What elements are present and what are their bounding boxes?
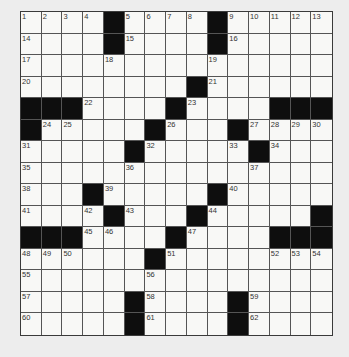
grid-cell[interactable]: 56: [145, 270, 166, 292]
grid-cell[interactable]: [104, 77, 125, 99]
grid-cell[interactable]: [42, 313, 63, 335]
grid-cell[interactable]: [166, 141, 187, 163]
grid-cell[interactable]: [104, 120, 125, 142]
grid-cell[interactable]: 40: [228, 184, 249, 206]
grid-cell[interactable]: [125, 227, 146, 249]
grid-cell[interactable]: 36: [125, 163, 146, 185]
grid-cell[interactable]: [228, 206, 249, 228]
grid-cell[interactable]: [270, 184, 291, 206]
grid-cell[interactable]: [125, 98, 146, 120]
grid-cell[interactable]: [270, 163, 291, 185]
grid-cell[interactable]: 16: [228, 34, 249, 56]
grid-cell[interactable]: [187, 292, 208, 314]
grid-cell[interactable]: [166, 313, 187, 335]
grid-cell[interactable]: 15: [125, 34, 146, 56]
grid-cell[interactable]: [145, 206, 166, 228]
grid-cell[interactable]: [104, 292, 125, 314]
grid-cell[interactable]: [145, 184, 166, 206]
grid-cell[interactable]: 7: [166, 12, 187, 34]
grid-cell[interactable]: [62, 34, 83, 56]
grid-cell[interactable]: [208, 249, 229, 271]
grid-cell[interactable]: [249, 227, 270, 249]
grid-cell[interactable]: 43: [125, 206, 146, 228]
grid-cell[interactable]: [291, 34, 312, 56]
grid-cell[interactable]: [208, 163, 229, 185]
grid-cell[interactable]: [187, 249, 208, 271]
grid-cell[interactable]: 33: [228, 141, 249, 163]
grid-cell[interactable]: [145, 98, 166, 120]
grid-cell[interactable]: [311, 313, 332, 335]
grid-cell[interactable]: 55: [21, 270, 42, 292]
grid-cell[interactable]: [208, 141, 229, 163]
grid-cell[interactable]: [291, 141, 312, 163]
grid-cell[interactable]: [166, 55, 187, 77]
grid-cell[interactable]: [249, 184, 270, 206]
grid-cell[interactable]: [228, 270, 249, 292]
grid-cell[interactable]: 6: [145, 12, 166, 34]
grid-cell[interactable]: [311, 270, 332, 292]
grid-cell[interactable]: 47: [187, 227, 208, 249]
grid-cell[interactable]: [104, 163, 125, 185]
grid-cell[interactable]: [291, 270, 312, 292]
grid-cell[interactable]: 60: [21, 313, 42, 335]
grid-cell[interactable]: 34: [270, 141, 291, 163]
grid-cell[interactable]: [125, 249, 146, 271]
grid-cell[interactable]: 23: [187, 98, 208, 120]
grid-cell[interactable]: [125, 270, 146, 292]
grid-cell[interactable]: 59: [249, 292, 270, 314]
grid-cell[interactable]: [166, 292, 187, 314]
grid-cell[interactable]: [83, 34, 104, 56]
grid-cell[interactable]: [208, 292, 229, 314]
grid-cell[interactable]: [270, 270, 291, 292]
grid-cell[interactable]: 32: [145, 141, 166, 163]
grid-cell[interactable]: [208, 98, 229, 120]
grid-cell[interactable]: [145, 77, 166, 99]
grid-cell[interactable]: 28: [270, 120, 291, 142]
grid-cell[interactable]: [125, 120, 146, 142]
grid-cell[interactable]: [187, 270, 208, 292]
grid-cell[interactable]: 10: [249, 12, 270, 34]
grid-cell[interactable]: [166, 163, 187, 185]
grid-cell[interactable]: 8: [187, 12, 208, 34]
grid-cell[interactable]: [187, 141, 208, 163]
grid-cell[interactable]: [83, 313, 104, 335]
grid-cell[interactable]: 42: [83, 206, 104, 228]
grid-cell[interactable]: 51: [166, 249, 187, 271]
grid-cell[interactable]: 29: [291, 120, 312, 142]
grid-cell[interactable]: [249, 98, 270, 120]
grid-cell[interactable]: [42, 206, 63, 228]
grid-cell[interactable]: [311, 34, 332, 56]
grid-cell[interactable]: 27: [249, 120, 270, 142]
grid-cell[interactable]: [249, 206, 270, 228]
grid-cell[interactable]: [83, 292, 104, 314]
grid-cell[interactable]: [208, 120, 229, 142]
grid-cell[interactable]: [291, 55, 312, 77]
grid-cell[interactable]: [311, 141, 332, 163]
grid-cell[interactable]: [42, 77, 63, 99]
grid-cell[interactable]: 17: [21, 55, 42, 77]
grid-cell[interactable]: [83, 141, 104, 163]
grid-cell[interactable]: 30: [311, 120, 332, 142]
grid-cell[interactable]: 1: [21, 12, 42, 34]
grid-cell[interactable]: 19: [208, 55, 229, 77]
grid-cell[interactable]: [166, 206, 187, 228]
grid-cell[interactable]: 21: [208, 77, 229, 99]
grid-cell[interactable]: [291, 184, 312, 206]
grid-cell[interactable]: [187, 55, 208, 77]
grid-cell[interactable]: [291, 163, 312, 185]
grid-cell[interactable]: [62, 270, 83, 292]
grid-cell[interactable]: 39: [104, 184, 125, 206]
grid-cell[interactable]: 4: [83, 12, 104, 34]
grid-cell[interactable]: [249, 55, 270, 77]
grid-cell[interactable]: [145, 163, 166, 185]
grid-cell[interactable]: 50: [62, 249, 83, 271]
grid-cell[interactable]: [270, 313, 291, 335]
grid-cell[interactable]: 49: [42, 249, 63, 271]
grid-cell[interactable]: [62, 163, 83, 185]
grid-cell[interactable]: 38: [21, 184, 42, 206]
grid-cell[interactable]: [270, 292, 291, 314]
grid-cell[interactable]: [187, 313, 208, 335]
grid-cell[interactable]: 3: [62, 12, 83, 34]
grid-cell[interactable]: 13: [311, 12, 332, 34]
grid-cell[interactable]: 14: [21, 34, 42, 56]
